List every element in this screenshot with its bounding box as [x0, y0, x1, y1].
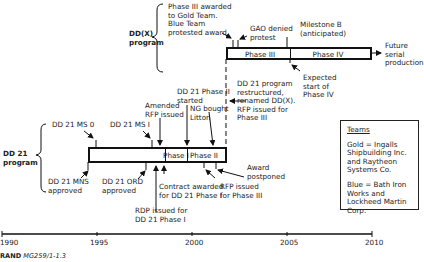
axis-tick-2010: 2010 — [365, 239, 383, 248]
teams-gold: Gold = Ingalls Shipbuilding Inc. and Ray… — [347, 141, 412, 175]
annotation-milestone-b: Milestone B(anticipated) — [300, 21, 346, 38]
annotation-amended-rfp: AmendedRFP issued — [145, 102, 184, 119]
axis-tick-1990: 1990 — [0, 239, 18, 248]
annotation-ord-approved: DD 21 ORDapproved — [102, 178, 143, 195]
axis-tick-2000: 2000 — [185, 239, 203, 248]
annotation-ms1: DD 21 MS I — [110, 121, 150, 130]
annotation-ms0: DD 21 MS 0 — [52, 121, 94, 130]
ddx-program-label: DD(X)program — [129, 30, 164, 47]
teams-blue: Blue = Bath Iron Works and Lockheed Mart… — [347, 181, 412, 215]
phase-divider — [187, 149, 188, 161]
annotation-mns-approved: DD 21 MNSapproved — [48, 178, 89, 195]
annotation-future-production: Futureserialproduction — [385, 42, 424, 68]
annotation-gao-denied: GAO deniedprotest — [250, 25, 293, 42]
phase-iii-label: Phase III — [245, 49, 275, 58]
teams-legend: Teams Gold = Ingalls Shipbuilding Inc. a… — [340, 120, 419, 210]
annotation-expected-phase4: Expectedstart ofPhase IV — [303, 74, 337, 100]
axis-tick-1995: 1995 — [90, 239, 108, 248]
axis-tick-2005: 2005 — [280, 239, 298, 248]
annotation-dd21-phase2-started: DD 21 Phase IIstarted — [177, 88, 230, 105]
annotation-phase3-awarded: Phase III awardedto Gold Team. Blue Team… — [168, 3, 231, 37]
dd21-timeline-bar: Phase I Phase II — [88, 147, 227, 163]
teams-title: Teams — [347, 126, 412, 135]
annotation-rfp-phase3: RFP issuedfor Phase III — [220, 183, 262, 200]
annotation-contract-awarded: Contract awardedfor DD 21 Phase I — [159, 183, 223, 200]
phase-iv-label: Phase IV — [313, 49, 344, 58]
phase-i-label: Phase I — [163, 151, 189, 160]
annotation-award-postponed: Awardpostponed — [247, 164, 285, 181]
phase-ii-label: Phase II — [190, 151, 218, 160]
dd21-program-label: DD 21program — [3, 150, 38, 167]
annotation-restructured: DD 21 programrestructured, renamed DD(X)… — [237, 80, 295, 123]
ddx-timeline-bar: Phase III Phase IV — [226, 47, 372, 60]
figure-credit: RAND MG259/1-1.3 — [0, 252, 66, 261]
phase-divider — [290, 49, 291, 58]
annotation-ng-bought-litton: NG boughtLitton — [190, 105, 229, 122]
annotation-rdp-issued: RDP issued forDD 21 Phase I — [135, 207, 187, 224]
